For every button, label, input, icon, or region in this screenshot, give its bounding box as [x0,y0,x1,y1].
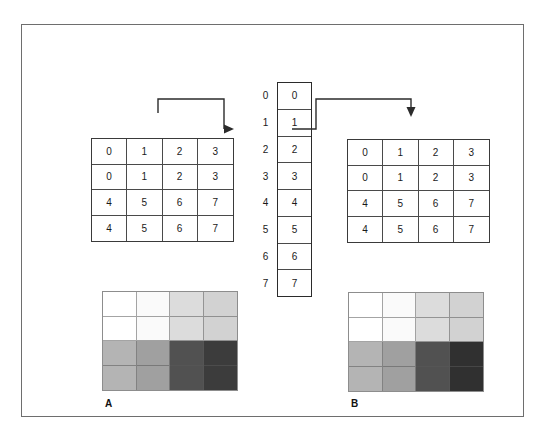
gray-cell [204,317,238,342]
table-cell: 6 [163,190,198,216]
lut-index-label: 0 [258,82,273,109]
gray-cell [450,367,484,392]
table-cell: 0 [92,165,127,191]
table-cell: 3 [454,166,489,192]
table-cell: 0 [92,139,127,165]
table-cell: 5 [127,216,162,242]
table-cell: 5 [127,190,162,216]
lut-index-label: 6 [258,243,273,270]
gray-cell [170,366,204,391]
figure-canvas: 0 1 2 3 0 1 2 3 4 5 6 7 4 5 6 7 0 1 2 3 … [0,0,544,438]
gray-cell [204,366,238,391]
table-cell: 1 [383,166,418,192]
table-cell: 5 [383,191,418,217]
gray-cell [349,342,383,367]
table-cell: 2 [419,140,454,166]
table-cell: 3 [198,165,233,191]
gray-cell [349,318,383,343]
input-value-table: 0 1 2 3 0 1 2 3 4 5 6 7 4 5 6 7 [91,138,234,242]
gray-cell [383,318,417,343]
gray-cell [349,367,383,392]
table-cell: 3 [198,139,233,165]
gray-image-b [348,292,484,392]
gray-cell [137,366,171,391]
gray-cell [204,292,238,317]
gray-cell [383,342,417,367]
figure-outer-frame: 0 1 2 3 0 1 2 3 4 5 6 7 4 5 6 7 0 1 2 3 … [21,24,524,417]
table-cell: 2 [163,139,198,165]
gray-cell [103,366,137,391]
table-cell: 6 [163,216,198,242]
lut-value-cell: 0 [278,83,311,110]
gray-image-a [102,291,238,391]
gray-cell [170,341,204,366]
table-cell: 4 [348,217,383,243]
table-cell: 2 [163,165,198,191]
table-cell: 1 [127,139,162,165]
gray-cell [204,341,238,366]
lut-index-label: 4 [258,190,273,217]
gray-cell [383,293,417,318]
gray-cell [416,367,450,392]
table-cell: 7 [454,217,489,243]
gray-cell [416,342,450,367]
table-cell: 4 [92,190,127,216]
panel-label-b: B [351,398,358,409]
lut-index-label: 7 [258,270,273,297]
lut-value-cell: 4 [278,190,311,217]
lut-index-label: 5 [258,216,273,243]
table-cell: 3 [454,140,489,166]
lut-value-cell: 3 [278,163,311,190]
output-value-table: 0 1 2 3 0 1 2 3 4 5 6 7 4 5 6 7 [347,139,490,243]
gray-cell [137,341,171,366]
gray-cell [450,293,484,318]
table-cell: 1 [127,165,162,191]
table-cell: 4 [348,191,383,217]
gray-cell [103,292,137,317]
table-cell: 7 [454,191,489,217]
table-cell: 6 [419,191,454,217]
table-cell: 5 [383,217,418,243]
lut-index-label: 3 [258,163,273,190]
table-cell: 7 [198,216,233,242]
lut-value-cell: 6 [278,244,311,271]
gray-cell [383,367,417,392]
lut-value-cell: 7 [278,270,311,296]
lut-value-cell: 5 [278,217,311,244]
gray-cell [416,318,450,343]
gray-cell [416,293,450,318]
gray-cell [170,292,204,317]
gray-cell [349,293,383,318]
gray-cell [450,342,484,367]
lut-value-cell: 1 [278,110,311,137]
table-cell: 6 [419,217,454,243]
table-cell: 2 [419,166,454,192]
lookup-table: 0 1 2 3 4 5 6 7 [277,82,312,297]
gray-cell [137,292,171,317]
table-cell: 0 [348,166,383,192]
gray-cell [103,317,137,342]
gray-cell [450,318,484,343]
table-cell: 0 [348,140,383,166]
lut-value-cell: 2 [278,137,311,164]
lut-index-column: 0 1 2 3 4 5 6 7 [258,82,273,297]
table-cell: 7 [198,190,233,216]
gray-cell [137,317,171,342]
lut-index-label: 1 [258,109,273,136]
gray-cell [103,341,137,366]
panel-label-a: A [105,398,112,409]
table-cell: 4 [92,216,127,242]
table-cell: 1 [383,140,418,166]
gray-cell [170,317,204,342]
lut-index-label: 2 [258,136,273,163]
